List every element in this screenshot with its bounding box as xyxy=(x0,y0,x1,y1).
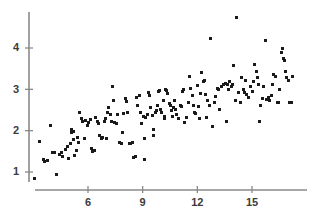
data-point xyxy=(142,115,145,118)
data-point xyxy=(239,101,242,104)
data-point xyxy=(148,94,151,97)
data-point xyxy=(38,140,41,143)
data-point xyxy=(43,160,46,163)
data-point xyxy=(156,104,159,107)
data-point xyxy=(104,117,107,120)
data-point xyxy=(159,108,162,111)
data-point xyxy=(136,104,139,107)
data-point xyxy=(268,99,271,102)
data-point xyxy=(152,128,155,131)
data-point xyxy=(165,89,168,92)
data-point xyxy=(291,75,294,78)
data-point xyxy=(247,96,250,99)
scatter-plot-figure: 1234 691215 xyxy=(0,0,318,218)
data-point xyxy=(73,154,76,157)
data-point xyxy=(256,76,259,79)
data-point xyxy=(110,120,113,123)
data-point xyxy=(163,115,166,118)
data-point xyxy=(162,99,165,102)
data-point xyxy=(170,109,173,112)
data-point xyxy=(251,90,254,93)
data-point xyxy=(290,101,293,104)
data-point xyxy=(107,106,110,109)
data-point xyxy=(217,88,220,91)
y-tick-label: 1 xyxy=(13,165,19,177)
data-point xyxy=(115,122,118,125)
data-point xyxy=(169,104,172,107)
data-point xyxy=(90,147,93,150)
data-point xyxy=(144,116,147,119)
data-point xyxy=(227,88,230,91)
data-point xyxy=(177,117,180,120)
data-point xyxy=(80,117,83,120)
data-point xyxy=(94,116,97,119)
data-point xyxy=(134,155,137,158)
data-point xyxy=(194,112,197,115)
data-point xyxy=(125,100,128,103)
data-point xyxy=(218,108,221,111)
data-point xyxy=(171,115,174,118)
data-point xyxy=(200,71,203,74)
data-point xyxy=(143,158,146,161)
data-point xyxy=(135,96,138,99)
data-point xyxy=(175,113,178,116)
data-point xyxy=(122,112,125,115)
data-point xyxy=(138,94,141,97)
data-point xyxy=(188,75,191,78)
data-point xyxy=(277,101,280,104)
data-point xyxy=(197,105,200,108)
data-point xyxy=(240,76,243,79)
data-point xyxy=(198,117,201,120)
data-point xyxy=(185,116,188,119)
data-point xyxy=(55,173,58,176)
data-point xyxy=(192,104,195,107)
y-tick-label: 2 xyxy=(13,124,19,136)
data-points-layer xyxy=(33,16,294,180)
data-point xyxy=(143,137,146,140)
data-point xyxy=(242,88,245,91)
data-point xyxy=(267,96,270,99)
data-point xyxy=(89,118,92,121)
data-point xyxy=(259,104,262,107)
data-point xyxy=(64,148,67,151)
data-point xyxy=(271,83,274,86)
data-point xyxy=(280,51,283,54)
data-point xyxy=(191,94,194,97)
data-point xyxy=(158,89,161,92)
data-point xyxy=(146,113,149,116)
data-point xyxy=(261,97,264,100)
x-tick-label: 9 xyxy=(140,196,146,208)
data-point xyxy=(182,88,185,91)
data-point xyxy=(152,134,155,137)
data-point xyxy=(61,155,64,158)
data-point xyxy=(105,137,108,140)
axes-group xyxy=(29,12,307,190)
data-point xyxy=(139,111,142,114)
data-point xyxy=(72,130,75,133)
data-point xyxy=(109,113,112,116)
data-point xyxy=(214,95,217,98)
data-point xyxy=(87,121,90,124)
data-point xyxy=(112,99,115,102)
data-point xyxy=(151,114,154,117)
data-point xyxy=(253,63,256,66)
data-point xyxy=(101,136,104,139)
data-point xyxy=(83,137,86,140)
data-point xyxy=(72,138,75,141)
data-point xyxy=(262,85,265,88)
data-point xyxy=(213,101,216,104)
data-point xyxy=(33,177,36,180)
data-point xyxy=(258,120,261,123)
data-point xyxy=(93,149,96,152)
x-tick-label: 6 xyxy=(85,196,91,208)
data-point xyxy=(76,136,79,139)
data-point xyxy=(235,16,238,19)
data-point xyxy=(232,64,235,67)
data-point xyxy=(209,37,212,40)
data-point xyxy=(281,47,284,50)
chart-canvas: 1234 691215 xyxy=(0,0,318,218)
x-tick-label: 15 xyxy=(246,196,258,208)
y-axis-ticks: 1234 xyxy=(13,41,33,177)
data-point xyxy=(255,70,258,73)
data-point xyxy=(274,75,277,78)
